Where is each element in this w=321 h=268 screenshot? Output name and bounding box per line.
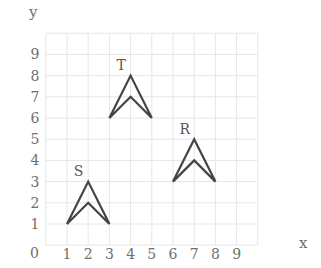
y-tick-label: 4	[31, 152, 40, 168]
x-tick-label: 1	[63, 246, 72, 262]
x-tick-label: 4	[126, 246, 135, 262]
y-tick-label: 7	[31, 89, 40, 105]
y-tick-label: 5	[31, 131, 40, 147]
y-tick-label: 1	[31, 216, 40, 232]
shape-label: S	[74, 163, 84, 179]
x-axis-label: x	[299, 234, 308, 252]
x-tick-label: 9	[232, 246, 241, 262]
axis-tick-labels: 123456789123456789	[31, 46, 242, 262]
y-tick-label: 2	[31, 195, 40, 211]
x-tick-label: 3	[105, 246, 114, 262]
x-tick-label: 2	[84, 246, 93, 262]
origin-label: 0	[30, 245, 39, 261]
x-tick-label: 8	[211, 246, 220, 262]
y-tick-label: 6	[31, 110, 40, 126]
x-tick-label: 5	[147, 246, 156, 262]
x-tick-label: 7	[190, 246, 199, 262]
x-tick-label: 6	[169, 246, 178, 262]
y-axis-label: y	[28, 3, 38, 21]
arrowhead-shapes: STR	[67, 57, 215, 224]
shape-label: T	[116, 57, 126, 73]
coordinate-plane: 123456789123456789 y x 0 STR	[0, 0, 321, 268]
y-tick-label: 9	[31, 46, 40, 62]
y-tick-label: 3	[31, 174, 40, 190]
shape-label: R	[179, 121, 190, 137]
coordinate-grid-diagram: 123456789123456789 y x 0 STR	[0, 0, 321, 268]
y-tick-label: 8	[31, 68, 40, 84]
